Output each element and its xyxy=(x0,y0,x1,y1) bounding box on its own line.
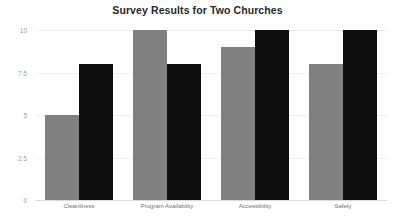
y-axis-tick-label: 7.5 xyxy=(0,69,27,76)
bar xyxy=(45,115,79,200)
bar xyxy=(255,30,289,200)
bar-chart-figure: Survey Results for Two Churches 02.557.5… xyxy=(0,0,395,223)
bar xyxy=(309,64,343,200)
x-axis-category-label: Accessibility xyxy=(239,203,272,209)
x-axis-category-label: Program Availability xyxy=(141,203,194,209)
plot-area xyxy=(35,30,387,200)
y-axis-tick-label: 5 xyxy=(0,112,27,119)
y-axis-tick-label: 0 xyxy=(0,197,27,204)
gridline xyxy=(35,200,387,201)
x-axis-category-label: Safety xyxy=(334,203,351,209)
y-axis-tick-label: 10 xyxy=(0,27,27,34)
bar xyxy=(167,64,201,200)
gridline xyxy=(35,30,387,31)
bar xyxy=(343,30,377,200)
bar xyxy=(221,47,255,200)
x-axis-category-label: Cleanliness xyxy=(63,203,94,209)
bar xyxy=(79,64,113,200)
y-axis-tick-label: 2.5 xyxy=(0,154,27,161)
bar xyxy=(133,30,167,200)
chart-title: Survey Results for Two Churches xyxy=(0,4,395,16)
